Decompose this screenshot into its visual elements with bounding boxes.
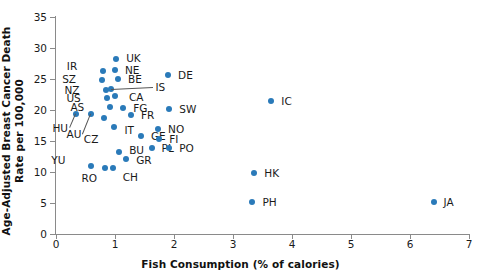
y-axis-title: Age-Adjusted Breast Cancer Death Rate pe… (0, 24, 26, 239)
data-point-label: JA (444, 196, 454, 208)
x-tick-label: 0 (53, 238, 60, 250)
data-point-label: CH (123, 171, 138, 183)
data-point[interactable] (113, 56, 119, 62)
data-point[interactable] (116, 149, 122, 155)
x-axis-line (55, 234, 469, 235)
label-leader-line (111, 87, 153, 90)
x-tick-label: 1 (112, 238, 119, 250)
x-tick-label: 3 (230, 238, 237, 250)
data-point[interactable] (128, 112, 134, 118)
data-point[interactable] (268, 98, 274, 104)
x-axis-title: Fish Consumption (% of calories) (0, 258, 481, 270)
data-point-label: SW (179, 103, 196, 115)
y-tick (50, 110, 55, 111)
data-point[interactable] (123, 156, 129, 162)
y-tick (50, 141, 55, 142)
data-point[interactable] (100, 68, 106, 74)
data-point-label: AU (67, 128, 82, 140)
data-point[interactable] (120, 105, 126, 111)
x-tick-label: 7 (466, 238, 473, 250)
data-point[interactable] (99, 77, 105, 83)
data-point-label: YU (51, 154, 65, 166)
data-point-label: CZ (84, 133, 99, 145)
data-point[interactable] (115, 76, 121, 82)
y-tick (50, 203, 55, 204)
data-point[interactable] (88, 163, 94, 169)
data-point[interactable] (112, 93, 118, 99)
data-point[interactable] (431, 199, 437, 205)
data-point-label: IC (281, 95, 291, 107)
data-point[interactable] (111, 124, 117, 130)
y-tick (50, 172, 55, 173)
data-point-label: GR (136, 154, 151, 166)
y-tick (50, 79, 55, 80)
data-point[interactable] (165, 72, 171, 78)
y-tick (50, 17, 55, 18)
x-tick-label: 4 (289, 238, 296, 250)
data-point-label: HK (264, 167, 279, 179)
data-point-label: IR (67, 60, 77, 72)
y-tick (50, 234, 55, 235)
data-point-label: DE (178, 69, 193, 81)
data-point-label: IS (155, 81, 165, 93)
scatter-chart: 05101520253035 01234567 Age-Adjusted Bre… (0, 0, 481, 279)
x-tick-label: 5 (348, 238, 355, 250)
data-point[interactable] (149, 145, 155, 151)
data-point[interactable] (110, 165, 116, 171)
data-point-label: IT (124, 124, 134, 136)
x-tick-label: 6 (407, 238, 414, 250)
data-point[interactable] (138, 133, 144, 139)
data-point-label: RO (81, 172, 97, 184)
y-tick (50, 48, 55, 49)
data-point[interactable] (104, 95, 110, 101)
data-point-label: PO (179, 142, 194, 154)
data-point[interactable] (251, 170, 257, 176)
data-point[interactable] (101, 115, 107, 121)
x-tick-label: 2 (171, 238, 178, 250)
data-point-label: BE (128, 73, 142, 85)
data-point-label: PH (262, 196, 276, 208)
data-point-label: UK (126, 52, 141, 64)
data-point[interactable] (166, 106, 172, 112)
data-point-label: FR (141, 109, 154, 121)
data-point[interactable] (102, 165, 108, 171)
plot-area: UKIRNEBESZNZISCAUSASFGDESWFRHUAUCZITGENO… (56, 17, 469, 234)
data-point[interactable] (107, 104, 113, 110)
y-tick-label: 35 (0, 11, 47, 23)
data-point[interactable] (249, 199, 255, 205)
data-point[interactable] (112, 67, 118, 73)
